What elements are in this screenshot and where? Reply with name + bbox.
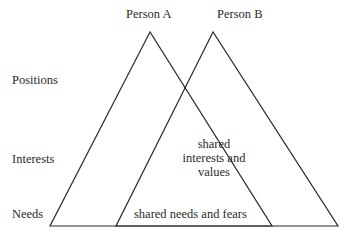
person-b-label: Person B — [217, 7, 263, 21]
level-positions-label: Positions — [12, 73, 58, 87]
level-interests-label: Interests — [12, 152, 54, 166]
triangle-person-b — [116, 32, 338, 226]
level-needs-label: Needs — [12, 207, 43, 221]
person-a-label: Person A — [126, 7, 172, 21]
shared-interests-label: shared interests and values — [166, 137, 262, 179]
triangle-person-a — [50, 32, 272, 226]
triangles-diagram — [0, 0, 350, 237]
shared-needs-label: shared needs and fears — [134, 207, 247, 221]
shared-interests-line1: shared — [166, 137, 262, 151]
shared-interests-line3: values — [166, 165, 262, 179]
shared-interests-line2: interests and — [166, 151, 262, 165]
